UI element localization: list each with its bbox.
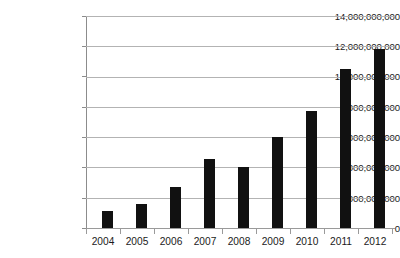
gridline [86,16,395,17]
bar-2006 [170,187,181,228]
axis-baseline [86,228,395,229]
bar-2010 [306,111,317,228]
bar-2009 [272,137,283,228]
bar-2012 [374,49,385,228]
bar-2004 [102,211,113,228]
bar-chart: 14,000,000,000 12,000,000,000 10,000,000… [0,0,400,258]
bar-2005 [136,204,147,228]
x-axis-tick-mark [324,229,325,234]
x-axis-tick-mark [154,229,155,234]
plot-area [86,16,395,228]
x-axis-tick-mark [222,229,223,234]
gridline [86,46,395,47]
x-axis-tick-mark [188,229,189,234]
x-axis-tick-mark [392,229,393,234]
x-axis-tick-mark [86,229,87,234]
bar-2007 [204,159,215,228]
x-axis-tick-mark [256,229,257,234]
bar-2008 [238,167,249,228]
x-axis-tick-mark [120,229,121,234]
x-axis-tick-mark [290,229,291,234]
x-axis-label-2012: 2012 [355,236,395,247]
bar-2011 [340,69,351,228]
x-axis-tick-mark [358,229,359,234]
